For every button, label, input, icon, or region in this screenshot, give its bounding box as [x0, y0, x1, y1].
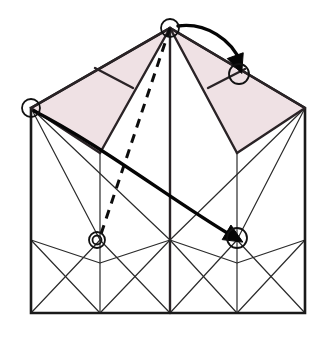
band-zigzag [31, 240, 305, 263]
right-shaded-flap [170, 28, 305, 153]
origami-crease-diagram [0, 0, 320, 342]
diagram-canvas [0, 0, 320, 342]
thin-fold-line-group [31, 28, 305, 313]
